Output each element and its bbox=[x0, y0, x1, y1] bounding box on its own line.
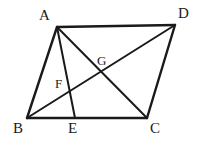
point-label-a: A bbox=[39, 8, 50, 23]
segment-ab bbox=[27, 27, 57, 118]
segment-bd bbox=[27, 25, 175, 118]
figure-canvas bbox=[0, 0, 206, 145]
point-label-f: F bbox=[55, 77, 62, 90]
geometry-figure: A B C D E F G bbox=[0, 0, 206, 145]
segment-ad bbox=[57, 25, 175, 27]
point-label-b: B bbox=[13, 121, 23, 136]
point-label-d: D bbox=[178, 6, 189, 21]
point-label-g: G bbox=[97, 54, 106, 67]
segment-ae bbox=[57, 27, 75, 118]
point-label-c: C bbox=[150, 121, 160, 136]
point-label-e: E bbox=[68, 121, 77, 136]
segments-group bbox=[27, 25, 175, 118]
segment-ac bbox=[57, 27, 147, 118]
